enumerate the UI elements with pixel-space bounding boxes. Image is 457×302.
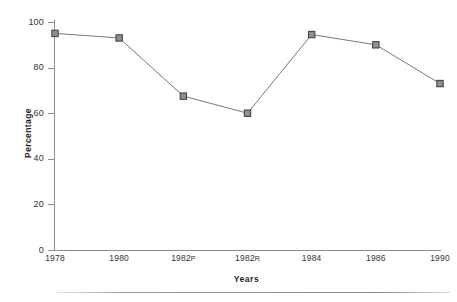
data-point-marker (373, 42, 379, 48)
data-point-marker (180, 93, 186, 99)
data-point-marker (52, 30, 58, 36)
data-point-marker (116, 35, 122, 41)
chart-figure: 020406080100 197819801982P1982R198419861… (0, 0, 457, 302)
series-layer (0, 0, 457, 302)
data-point-marker (244, 110, 250, 116)
page-divider-rule (56, 292, 450, 293)
series-markers (52, 30, 443, 116)
y-axis-title: Percentage (23, 93, 33, 173)
series-line-percentage (55, 33, 440, 113)
data-point-marker (308, 31, 314, 37)
data-point-marker (437, 80, 443, 86)
x-axis-title: Years (0, 274, 457, 284)
